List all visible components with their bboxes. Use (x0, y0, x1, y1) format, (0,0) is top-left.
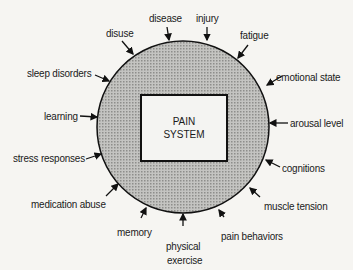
label-muscle-tension: muscle tension (264, 200, 328, 212)
label-medication-abuse: medication abuse (31, 198, 106, 210)
center-label-line1: PAIN (173, 115, 196, 128)
label-memory: memory (117, 226, 152, 238)
label-injury: injury (196, 12, 219, 24)
label-stress-responses: stress responses (13, 152, 85, 164)
label-pain-behaviors: pain behaviors (221, 230, 283, 242)
label-physical: physical (166, 240, 200, 252)
label-disuse: disuse (106, 27, 134, 39)
label-disease: disease (149, 12, 182, 24)
label-arousal-level: arousal level (290, 117, 343, 129)
label-cognitions: cognitions (282, 162, 325, 174)
label-fatigue: fatigue (240, 29, 268, 41)
center-label-line2: SYSTEM (163, 128, 204, 141)
label-exercise: exercise (167, 254, 202, 266)
label-sleep-disorders: sleep disorders (27, 67, 91, 79)
label-learning: learning (44, 110, 78, 122)
label-emotional-state: emotional state (276, 71, 340, 83)
pain-system-box: PAIN SYSTEM (140, 94, 228, 162)
